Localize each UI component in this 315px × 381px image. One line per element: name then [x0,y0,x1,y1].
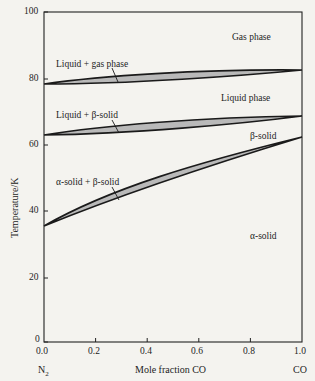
x-tick-0.8: 0.8 [243,347,255,357]
x-axis-ticks [96,338,251,342]
phase-diagram-plot [0,0,315,381]
y-tick-40: 40 [29,206,39,216]
y-tick-20: 20 [29,273,39,283]
region-liquid-beta-label: Liquid + β-solid [56,111,118,121]
liquid-gas-lens [44,70,302,84]
x-tick-0.0: 0.0 [36,347,48,357]
x-tick-0.6: 0.6 [191,347,203,357]
region-alpha-beta-label: α-solid + β-solid [56,178,119,188]
x-axis-label: Mole fraction CO [135,365,206,375]
region-liquid-gas-label: Liquid + gas phase [56,60,128,70]
y-tick-0: 0 [35,335,40,345]
x-tick-0.2: 0.2 [88,347,100,357]
y-tick-60: 60 [29,140,39,150]
y-tick-80: 80 [29,74,39,84]
y-axis-label: Temperature/K [9,178,20,238]
y-tick-100: 100 [24,7,38,17]
region-gas-label: Gas phase [232,33,271,43]
region-alpha-label: α-solid [250,232,277,242]
x-left-component: N2 [38,365,49,378]
x-right-component: CO [293,365,307,375]
x-tick-0.4: 0.4 [140,347,152,357]
region-liquid-label: Liquid phase [221,94,270,104]
y-axis-ticks [44,12,48,342]
n2-subscript: 2 [45,370,49,378]
region-beta-label: β-solid [250,132,276,142]
x-tick-1.0: 1.0 [294,347,306,357]
